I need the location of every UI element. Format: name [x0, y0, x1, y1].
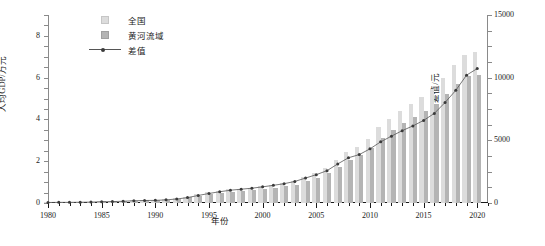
difference-point: [197, 194, 200, 197]
y-axis-left-tick-label: 8: [16, 31, 40, 40]
difference-point: [272, 184, 275, 187]
y-axis-right-tick: [488, 125, 492, 126]
difference-point: [347, 156, 350, 159]
difference-point: [240, 188, 243, 191]
difference-point: [401, 129, 404, 132]
x-axis-tick: [263, 203, 264, 208]
difference-point: [89, 201, 92, 204]
y-axis-left-tick-label: 2: [16, 156, 40, 165]
x-axis-tick-label: 2005: [296, 211, 336, 220]
difference-point: [57, 201, 60, 204]
y-axis-right-tick: [488, 156, 492, 157]
x-axis-tick: [488, 203, 489, 206]
x-axis-tick-label: 1980: [28, 211, 68, 220]
y-axis-left-title: 人均GDP/万元: [0, 39, 7, 129]
difference-point: [68, 201, 71, 204]
x-axis-tick-label: 1985: [82, 211, 122, 220]
y-axis-right-tick-label: 10000: [494, 73, 514, 82]
difference-point: [476, 67, 479, 70]
difference-point: [186, 196, 189, 199]
difference-point: [111, 200, 114, 203]
x-axis-tick: [456, 203, 457, 206]
x-axis-tick: [252, 203, 253, 206]
x-axis-tick: [145, 203, 146, 206]
x-axis-tick: [102, 203, 103, 208]
y-axis-left-tick-label: 0: [16, 198, 40, 207]
difference-point: [122, 200, 125, 203]
difference-point: [368, 147, 371, 150]
difference-point: [326, 169, 329, 172]
x-axis-tick: [134, 203, 135, 206]
difference-point: [132, 199, 135, 202]
x-axis-tick: [209, 203, 210, 208]
difference-point: [100, 200, 103, 203]
x-axis-tick: [241, 203, 242, 206]
y-axis-left-tick-label: 4: [16, 114, 40, 123]
x-axis-tick: [477, 203, 478, 208]
difference-point: [293, 180, 296, 183]
x-axis-tick: [338, 203, 339, 206]
y-axis-left-tick-label: 6: [16, 73, 40, 82]
difference-point: [154, 199, 157, 202]
x-axis-tick-label: 1995: [189, 211, 229, 220]
difference-point: [165, 198, 168, 201]
x-axis-tick-label: 2015: [404, 211, 444, 220]
difference-point: [336, 162, 339, 165]
difference-point: [229, 189, 232, 192]
x-axis-tick: [445, 203, 446, 206]
difference-point: [422, 119, 425, 122]
difference-point: [218, 190, 221, 193]
difference-point: [207, 192, 210, 195]
difference-point: [390, 135, 393, 138]
x-axis-tick: [188, 203, 189, 206]
y-axis-right-tick: [488, 109, 492, 110]
y-axis-right-tick: [488, 187, 492, 188]
difference-point: [283, 182, 286, 185]
plot-area: 02468 050001000015000 198019851990199520…: [48, 15, 488, 203]
x-axis-tick: [155, 203, 156, 208]
x-axis-tick: [359, 203, 360, 206]
x-axis-tick: [316, 203, 317, 208]
x-axis-tick: [391, 203, 392, 206]
difference-point: [261, 185, 264, 188]
y-axis-right-tick: [488, 172, 492, 173]
x-axis-tick: [123, 203, 124, 206]
x-axis-tick-label: 2020: [457, 211, 497, 220]
x-axis-tick-label: 2000: [243, 211, 283, 220]
y-axis-right-tick: [488, 78, 492, 79]
x-axis-tick: [381, 203, 382, 206]
difference-point: [79, 201, 82, 204]
x-axis-tick: [306, 203, 307, 206]
y-axis-right-tick: [488, 31, 492, 32]
x-axis-tick: [349, 203, 350, 206]
difference-point: [250, 187, 253, 190]
difference-line-series: [48, 15, 488, 203]
difference-point: [379, 140, 382, 143]
difference-point: [465, 74, 468, 77]
x-axis-tick: [424, 203, 425, 208]
x-axis-tick: [166, 203, 167, 206]
x-axis-tick: [295, 203, 296, 206]
difference-point: [411, 124, 414, 127]
y-axis-right-tick-label: 0: [494, 198, 498, 207]
x-axis-tick: [434, 203, 435, 206]
x-axis-tick: [370, 203, 371, 208]
difference-point: [175, 197, 178, 200]
difference-point: [143, 199, 146, 202]
difference-point: [315, 173, 318, 176]
chart-figure: 全国 黄河流域 差值 人均GDP/万元 差值/元 年份 02468 050001…: [0, 0, 545, 246]
difference-point: [47, 201, 50, 204]
difference-point: [304, 177, 307, 180]
y-axis-right-tick: [488, 140, 492, 141]
x-axis-tick: [273, 203, 274, 206]
y-axis-right-tick: [488, 46, 492, 47]
x-axis-tick: [402, 203, 403, 206]
difference-point: [454, 89, 457, 92]
x-axis-tick-label: 2010: [350, 211, 390, 220]
x-axis-tick: [413, 203, 414, 206]
difference-point: [444, 101, 447, 104]
x-axis-tick-label: 1990: [135, 211, 175, 220]
x-axis-tick: [230, 203, 231, 206]
x-axis-tick: [327, 203, 328, 206]
x-axis-tick: [467, 203, 468, 206]
